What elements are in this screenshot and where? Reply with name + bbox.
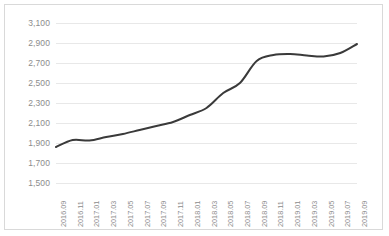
- chart-frame: 3,1002,9002,7002,5002,3002,1001,9001,700…: [4, 4, 383, 230]
- y-axis-tick-label: 1,500: [28, 179, 50, 188]
- series-line-path: [56, 44, 357, 147]
- x-axis-tick-label: 2017.07: [143, 201, 152, 227]
- y-axis-tick-label: 2,100: [28, 119, 50, 128]
- x-axis-tick-label: 2018.03: [210, 201, 219, 227]
- x-axis-tick-label: 2019.01: [293, 201, 302, 227]
- line-series: [56, 23, 357, 183]
- x-axis-tick-label: 2016.09: [59, 201, 68, 227]
- y-axis-tick-label: 1,900: [28, 139, 50, 148]
- x-axis-tick-label: 2017.11: [176, 201, 185, 227]
- x-axis-tick-label: 2017.09: [159, 201, 168, 227]
- x-axis-tick-label: 2018.11: [276, 201, 285, 227]
- x-axis-tick-label: 2019.07: [343, 201, 352, 227]
- x-axis-tick-label: 2018.01: [193, 201, 202, 227]
- x-axis-tick-label: 2019.05: [327, 201, 336, 227]
- x-axis-tick-label: 2017.05: [126, 201, 135, 227]
- y-axis-tick-label: 3,100: [28, 19, 50, 28]
- x-axis-tick-label: 2017.03: [109, 201, 118, 227]
- y-axis-labels: 3,1002,9002,7002,5002,3002,1001,9001,700…: [5, 5, 53, 201]
- y-axis-tick-label: 2,700: [28, 59, 50, 68]
- chart-plot-wrapper: 3,1002,9002,7002,5002,3002,1001,9001,700…: [5, 5, 384, 231]
- y-axis-tick-label: 2,500: [28, 79, 50, 88]
- x-axis-tick-label: 2018.09: [260, 201, 269, 227]
- x-axis-tick-label: 2018.07: [243, 201, 252, 227]
- x-axis-labels: 2016.092016.112017.012017.032017.052017.…: [56, 185, 357, 231]
- x-axis-tick-label: 2017.01: [92, 201, 101, 227]
- x-axis-tick-label: 2019.03: [310, 201, 319, 227]
- x-axis-tick-label: 2019.09: [360, 201, 369, 227]
- x-axis-tick-label: 2018.05: [226, 201, 235, 227]
- y-axis-tick-label: 1,700: [28, 159, 50, 168]
- x-axis-tick-label: 2016.11: [76, 201, 85, 227]
- gridline: [56, 183, 357, 184]
- y-axis-tick-label: 2,300: [28, 99, 50, 108]
- y-axis-tick-label: 2,900: [28, 39, 50, 48]
